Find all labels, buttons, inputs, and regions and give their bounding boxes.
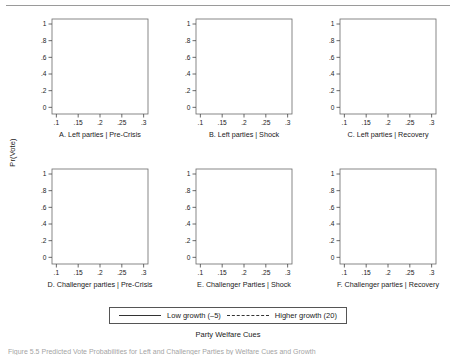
panel-title-d: D. Challenger parties | Pre-Crisis — [48, 280, 153, 289]
y-tick-label: .8 — [41, 187, 47, 194]
x-axis-title: Party Welfare Cues — [0, 330, 456, 339]
x-tick-label: .2 — [241, 119, 247, 126]
panel-b: 0.2.4.6.81.1.15.2.25.3B. Left parties | … — [185, 19, 292, 139]
x-tick-label: .1 — [342, 269, 348, 276]
x-tick-label: .3 — [141, 269, 147, 276]
y-tick-label: .8 — [329, 37, 335, 44]
figure-panel-grid: Pr(Vote) 0.2.4.6.81.1.15.2.25.3A. Left p… — [0, 8, 456, 308]
panel-d: 0.2.4.6.81.1.15.2.25.3D. Challenger part… — [41, 169, 153, 289]
x-tick-label: .3 — [429, 119, 435, 126]
y-tick-label: .2 — [329, 87, 335, 94]
y-tick-label: .2 — [185, 237, 191, 244]
y-tick-label: .8 — [185, 37, 191, 44]
figure-caption: Figure 5.5 Predicted Vote Probabilities … — [8, 347, 448, 355]
x-tick-label: .3 — [285, 269, 291, 276]
y-axis-title: Pr(Vote) — [8, 123, 17, 183]
panel-title-a: A. Left parties | Pre-Crisis — [59, 130, 141, 139]
header-rule — [6, 5, 450, 6]
y-tick-label: .8 — [185, 187, 191, 194]
legend-label-higher-growth: Higher growth (20) — [275, 311, 337, 320]
x-tick-label: .1 — [54, 119, 60, 126]
x-tick-label: .25 — [117, 119, 126, 126]
x-tick-label: .15 — [74, 119, 83, 126]
legend-label-low-growth: Low growth (–5) — [167, 311, 221, 320]
x-tick-label: .25 — [117, 269, 126, 276]
panels-svg: 0.2.4.6.81.1.15.2.25.3A. Left parties | … — [0, 8, 456, 308]
y-tick-label: .6 — [185, 204, 191, 211]
y-tick-label: .4 — [41, 220, 47, 227]
y-tick-label: .6 — [329, 54, 335, 61]
y-tick-label: 1 — [43, 20, 47, 27]
y-tick-label: .4 — [329, 220, 335, 227]
x-tick-label: .15 — [74, 269, 83, 276]
panel-f: 0.2.4.6.81.1.15.2.25.3F. Challenger part… — [329, 169, 439, 289]
y-tick-label: .6 — [185, 54, 191, 61]
y-tick-label: .4 — [329, 70, 335, 77]
plot-frame — [340, 19, 436, 114]
legend-dashed-line-icon — [227, 315, 269, 316]
legend: Low growth (–5) Higher growth (20) — [0, 302, 456, 324]
y-tick-label: .2 — [41, 87, 47, 94]
panel-title-f: F. Challenger parties | Recovery — [337, 280, 440, 289]
y-tick-label: 1 — [43, 170, 47, 177]
y-tick-label: .4 — [41, 70, 47, 77]
y-tick-label: 1 — [187, 20, 191, 27]
y-tick-label: 0 — [187, 254, 191, 261]
x-tick-label: .25 — [405, 119, 414, 126]
x-tick-label: .3 — [141, 119, 147, 126]
panel-c: 0.2.4.6.81.1.15.2.25.3C. Left parties | … — [329, 19, 436, 139]
y-tick-label: 0 — [331, 254, 335, 261]
plot-frame — [52, 169, 148, 264]
x-tick-label: .15 — [218, 269, 227, 276]
y-tick-label: 0 — [43, 254, 47, 261]
y-tick-label: .4 — [185, 70, 191, 77]
y-tick-label: .2 — [185, 87, 191, 94]
x-tick-label: .25 — [261, 269, 270, 276]
y-tick-label: 0 — [187, 104, 191, 111]
x-tick-label: .1 — [342, 119, 348, 126]
y-tick-label: .4 — [185, 220, 191, 227]
panel-e: 0.2.4.6.81.1.15.2.25.3E. Challenger Part… — [185, 169, 292, 289]
x-tick-label: .15 — [362, 269, 371, 276]
x-tick-label: .3 — [429, 269, 435, 276]
x-tick-label: .1 — [54, 269, 60, 276]
y-tick-label: .8 — [329, 187, 335, 194]
y-tick-label: 1 — [331, 20, 335, 27]
x-tick-label: .15 — [218, 119, 227, 126]
x-tick-label: .3 — [285, 119, 291, 126]
panel-a: 0.2.4.6.81.1.15.2.25.3A. Left parties | … — [41, 19, 148, 139]
x-tick-label: .2 — [97, 269, 103, 276]
x-tick-label: .2 — [385, 119, 391, 126]
y-tick-label: 1 — [187, 170, 191, 177]
x-tick-label: .2 — [241, 269, 247, 276]
y-tick-label: .2 — [329, 237, 335, 244]
x-tick-label: .25 — [405, 269, 414, 276]
x-tick-label: .2 — [97, 119, 103, 126]
y-tick-label: .2 — [41, 237, 47, 244]
panel-title-b: B. Left parties | Shock — [209, 130, 280, 139]
panel-title-e: E. Challenger Parties | Shock — [197, 280, 291, 289]
plot-frame — [196, 169, 292, 264]
x-tick-label: .25 — [261, 119, 270, 126]
y-tick-label: 0 — [43, 104, 47, 111]
x-tick-label: .1 — [198, 269, 204, 276]
y-tick-label: .6 — [41, 54, 47, 61]
plot-frame — [340, 169, 436, 264]
x-tick-label: .1 — [198, 119, 204, 126]
y-tick-label: 1 — [331, 170, 335, 177]
y-tick-label: .6 — [41, 204, 47, 211]
x-tick-label: .15 — [362, 119, 371, 126]
x-tick-label: .2 — [385, 269, 391, 276]
y-tick-label: .6 — [329, 204, 335, 211]
panel-title-c: C. Left parties | Recovery — [348, 130, 429, 139]
y-tick-label: .8 — [41, 37, 47, 44]
plot-frame — [196, 19, 292, 114]
plot-frame — [52, 19, 148, 114]
legend-solid-line-icon — [119, 315, 161, 316]
legend-box: Low growth (–5) Higher growth (20) — [109, 307, 347, 324]
y-tick-label: 0 — [331, 104, 335, 111]
